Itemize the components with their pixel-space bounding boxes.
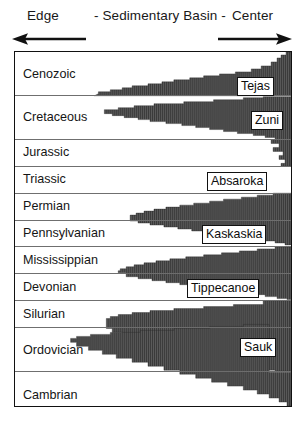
period-label-mississippian: Mississippian: [23, 253, 98, 267]
stratigraphic-chart: Cenozoic Cretaceous Jurassic Triassic Pe…: [14, 51, 292, 407]
arrow-left-icon: [12, 32, 86, 46]
arrow-right-icon: [218, 32, 292, 46]
basin-title: - Sedimentary Basin -: [94, 8, 226, 23]
wedge-zuni: [104, 97, 291, 167]
sequence-label-tejas: Tejas: [237, 77, 274, 96]
period-label-cambrian: Cambrian: [23, 388, 78, 402]
sequence-label-zuni: Zuni: [251, 111, 283, 130]
sequence-label-tippecanoe: Tippecanoe: [187, 279, 259, 298]
sequence-label-absaroka: Absaroka: [207, 172, 267, 191]
period-label-ordovician: Ordovician: [23, 343, 83, 357]
sequence-label-sauk: Sauk: [240, 338, 276, 357]
period-label-cretaceous: Cretaceous: [23, 110, 87, 124]
period-label-pennsylvanian: Pennsylvanian: [23, 226, 105, 240]
wedge-sauk-body: [71, 324, 291, 406]
period-label-cenozoic: Cenozoic: [23, 67, 76, 81]
edge-label: Edge: [27, 8, 59, 23]
sequence-label-kaskaskia: Kaskaskia: [202, 225, 266, 244]
period-label-silurian: Silurian: [23, 307, 65, 321]
period-label-devonian: Devonian: [23, 280, 76, 294]
direction-arrows: [0, 32, 308, 48]
period-label-jurassic: Jurassic: [23, 145, 69, 159]
center-label: Center: [232, 8, 273, 23]
period-label-permian: Permian: [23, 199, 70, 213]
period-label-triassic: Triassic: [23, 172, 66, 186]
